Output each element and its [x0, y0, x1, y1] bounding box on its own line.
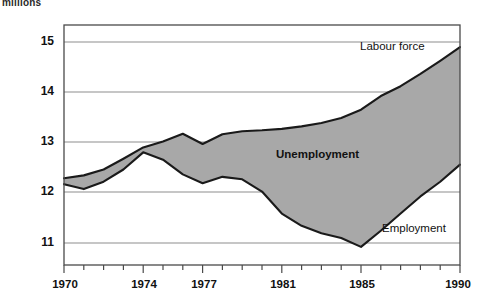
y-tick-label-13: 13 [24, 134, 54, 148]
x-tick-label-1985: 1985 [339, 278, 385, 290]
annotation-unemployment: Unemployment [276, 148, 359, 160]
x-tick-label-1974: 1974 [121, 278, 167, 290]
chart-figure: millions 15 14 13 12 11 1970 1974 1977 1… [0, 0, 479, 301]
x-tick-label-1970: 1970 [42, 278, 88, 290]
annotation-labour-force: Labour force [360, 40, 425, 52]
x-tick-label-1990: 1990 [435, 278, 479, 290]
y-tick-label-11: 11 [24, 235, 54, 249]
y-tick-label-12: 12 [24, 184, 54, 198]
y-tick-label-15: 15 [24, 34, 54, 48]
annotation-employment: Employment [382, 222, 446, 234]
x-axis-ticks [64, 265, 460, 273]
x-tick-label-1977: 1977 [181, 278, 227, 290]
x-tick-label-1981: 1981 [260, 278, 306, 290]
y-tick-label-14: 14 [24, 84, 54, 98]
